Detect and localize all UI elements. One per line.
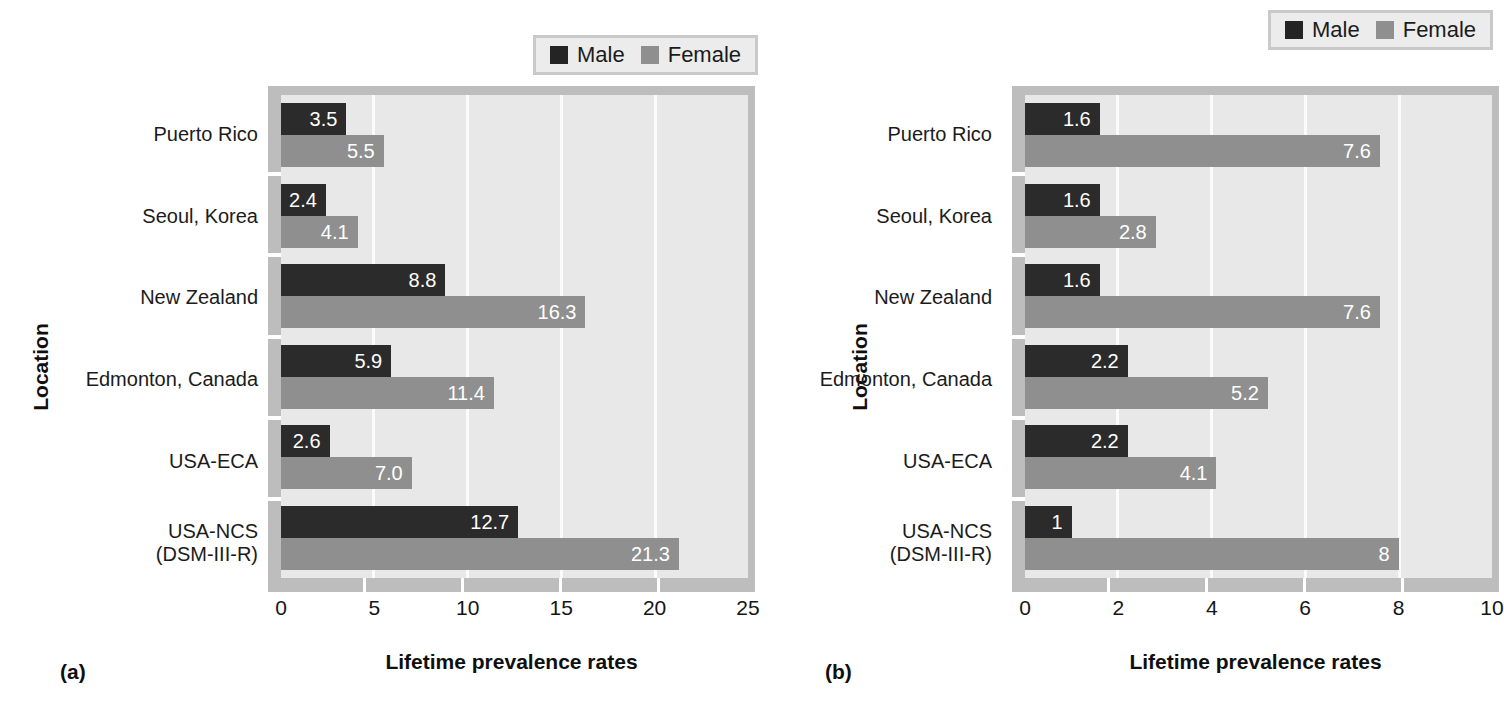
x-tick-label: 20 [643,596,666,620]
bar-male: 2.6 [281,425,330,457]
bar-female: 4.1 [281,216,358,248]
bar-male: 1 [1025,506,1072,538]
bar-value-label: 2.6 [293,431,321,451]
category-label: Seoul, Korea [794,176,1002,258]
bar-group: 2.44.1 [281,176,748,257]
x-axis-title: Lifetime prevalence rates [1012,650,1499,674]
legend-swatch-male-icon [1285,21,1303,39]
bar-male: 8.8 [281,264,445,296]
bar-female: 2.8 [1025,216,1156,248]
bar-value-label: 2.8 [1119,222,1147,242]
x-tick-label: 0 [1019,596,1031,620]
y-axis-title: Location [29,312,53,422]
bar-value-label: 12.7 [470,512,509,532]
bar-group: 12.721.3 [281,498,748,579]
bar-value-label: 7.6 [1343,302,1371,322]
legend-panel-b: Male Female [1268,10,1493,50]
frame-bottom-bar [268,578,755,592]
frame-left-bar [1012,95,1025,578]
bar-group: 3.55.5 [281,95,748,176]
bar-female: 4.1 [1025,457,1216,489]
legend-entry-male: Male [550,44,625,66]
category-axis-labels: Puerto Rico Seoul, Korea New Zealand Edm… [794,94,1002,584]
x-tick-label: 15 [550,596,573,620]
bar-value-label: 11.4 [447,383,484,403]
x-axis-ticks: 0246810 [1012,596,1499,626]
bar-value-label: 5.2 [1231,383,1259,403]
category-label: Puerto Rico [60,94,268,176]
x-tick-label: 2 [1113,596,1125,620]
bar-value-label: 4.1 [1180,463,1208,483]
bar-male: 2.4 [281,184,326,216]
category-label: USA-NCS (DSM-III-R) [794,502,1002,584]
bar-value-label: 21.3 [631,544,670,564]
bar-value-label: 2.2 [1091,431,1119,451]
bar-value-label: 5.5 [347,141,375,161]
bar-value-label: 7.0 [375,463,403,483]
bar-male: 5.9 [281,345,391,377]
bar-value-label: 2.4 [289,190,317,210]
category-label: USA-ECA [60,421,268,503]
chart-panel-b: Male Female Location Puerto Rico Seoul, … [790,0,1504,724]
bar-value-label: 3.5 [310,109,338,129]
plot-frame: 1.67.61.62.81.67.62.25.22.24.118 [1012,86,1499,592]
bar-value-label: 5.9 [354,351,382,371]
legend-label-female: Female [1403,19,1476,41]
x-tick-label: 5 [369,596,381,620]
bar-value-label: 1.6 [1063,270,1091,290]
bar-female: 8 [1025,538,1399,570]
x-tick-label: 4 [1206,596,1218,620]
frame-right-bar [1492,95,1499,578]
bar-group: 1.67.6 [1025,256,1492,337]
x-axis-ticks: 0510152025 [268,596,755,626]
bar-group: 1.62.8 [1025,176,1492,257]
bar-female: 7.6 [1025,135,1380,167]
panel-caption: (a) [60,660,86,684]
x-axis-title: Lifetime prevalence rates [268,650,755,674]
bar-value-label: 16.3 [538,302,577,322]
x-tick-label: 10 [1480,596,1503,620]
bar-value-label: 1.6 [1063,190,1091,210]
bar-female: 7.0 [281,457,412,489]
bar-value-label: 8.8 [409,270,437,290]
category-label: New Zealand [60,257,268,339]
bar-female: 7.6 [1025,296,1380,328]
panel-caption: (b) [825,660,852,684]
bar-male: 2.2 [1025,425,1128,457]
bar-group: 2.24.1 [1025,417,1492,498]
category-label: New Zealand [794,257,1002,339]
legend-entry-female: Female [1376,19,1476,41]
category-label: USA-NCS (DSM-III-R) [60,502,268,584]
legend-entry-female: Female [641,44,741,66]
frame-left-bar [268,95,281,578]
bar-value-label: 1.6 [1063,109,1091,129]
bar-group: 18 [1025,498,1492,579]
category-axis-labels: Puerto Rico Seoul, Korea New Zealand Edm… [60,94,268,584]
bar-male: 1.6 [1025,184,1100,216]
bar-female: 5.2 [1025,377,1268,409]
bar-female: 5.5 [281,135,384,167]
category-label: USA-ECA [794,421,1002,503]
bar-group: 2.25.2 [1025,337,1492,418]
bar-value-label: 1 [1052,512,1063,532]
bar-female: 16.3 [281,296,585,328]
plot-area: 3.55.52.44.18.816.35.911.42.67.012.721.3 [281,95,748,578]
legend-swatch-female-icon [1376,21,1394,39]
chart-panel-a: Male Female Location Puerto Rico Seoul, … [0,0,790,724]
legend-entry-male: Male [1285,19,1360,41]
bar-value-label: 4.1 [321,222,349,242]
bar-groups: 3.55.52.44.18.816.35.911.42.67.012.721.3 [281,95,748,578]
category-label: Edmonton, Canada [794,339,1002,421]
bar-male: 1.6 [1025,103,1100,135]
bar-female: 21.3 [281,538,679,570]
frame-bottom-bar [1012,578,1499,592]
bar-male: 12.7 [281,506,518,538]
bar-value-label: 8 [1378,544,1389,564]
x-tick-label: 0 [275,596,287,620]
bar-male: 3.5 [281,103,346,135]
category-label: Puerto Rico [794,94,1002,176]
category-label: Seoul, Korea [60,176,268,258]
bar-groups: 1.67.61.62.81.67.62.25.22.24.118 [1025,95,1492,578]
plot-frame: 3.55.52.44.18.816.35.911.42.67.012.721.3 [268,86,755,592]
bar-male: 2.2 [1025,345,1128,377]
